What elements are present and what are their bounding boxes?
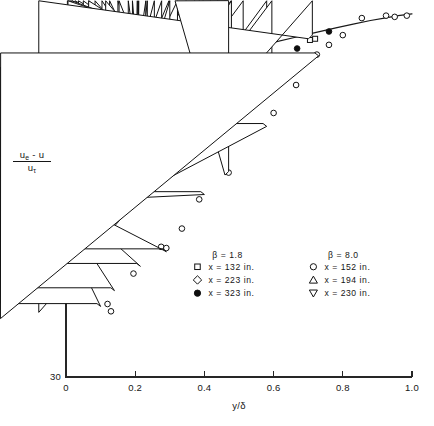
legend-label-2-2: x = 194 in. bbox=[324, 275, 370, 285]
data-point bbox=[108, 308, 114, 314]
data-point bbox=[404, 13, 410, 19]
x-tick-label-0.6: 0.6 bbox=[267, 382, 281, 393]
data-point bbox=[383, 13, 389, 19]
data-point bbox=[340, 32, 346, 38]
legend-marker-circle-filled bbox=[194, 290, 200, 296]
data-point bbox=[271, 110, 277, 116]
legend-header-2: β = 8.0 bbox=[328, 250, 359, 260]
y-axis-label-numerator: ue ‑ u bbox=[6, 150, 58, 160]
data-point bbox=[196, 197, 202, 203]
legend-label-2-1: x = 152 in. bbox=[324, 262, 370, 272]
y-axis-label-denominator: uτ bbox=[6, 163, 58, 173]
legend-marker-triangle-down-open bbox=[309, 290, 317, 297]
data-point bbox=[326, 42, 332, 48]
legend-label-2-3: x = 230 in. bbox=[324, 288, 370, 298]
legend-column-1: β = 1.8x = 132 in.x = 223 in.x = 323 in. bbox=[193, 250, 254, 298]
legend-label-1-3: x = 323 in. bbox=[208, 288, 254, 298]
legend-label-1-1: x = 132 in. bbox=[208, 262, 254, 272]
legend-column-2: β = 8.0x = 152 in.x = 194 in.x = 230 in. bbox=[309, 250, 370, 298]
data-point bbox=[313, 36, 318, 41]
data-point bbox=[326, 29, 332, 35]
data-point bbox=[0, 53, 318, 319]
data-point bbox=[293, 82, 299, 88]
legend-marker-circle-open bbox=[310, 264, 316, 270]
legend-marker-square-open bbox=[195, 264, 201, 270]
chart-figure: 010203000.20.40.60.81.0y/δβ = 1.8x = 132… bbox=[0, 0, 434, 426]
x-axis-label: y/δ bbox=[232, 400, 246, 411]
data-point bbox=[359, 15, 365, 21]
series-beta-8.0-x-230 bbox=[0, 53, 318, 319]
x-tick-label-0: 0 bbox=[63, 382, 68, 393]
x-tick-label-0.8: 0.8 bbox=[336, 382, 350, 393]
data-point bbox=[105, 301, 111, 307]
x-tick-label-0.4: 0.4 bbox=[197, 382, 211, 393]
x-tick-label-0.2: 0.2 bbox=[128, 382, 142, 393]
plot-canvas: 010203000.20.40.60.81.0y/δβ = 1.8x = 132… bbox=[0, 0, 434, 426]
legend-header-1: β = 1.8 bbox=[212, 250, 243, 260]
data-point bbox=[131, 271, 137, 277]
y-axis-label: ue ‑ u uτ bbox=[6, 150, 58, 173]
legend-label-1-2: x = 223 in. bbox=[208, 275, 254, 285]
data-point bbox=[392, 14, 398, 20]
legend-marker-triangle-up-open bbox=[309, 276, 317, 283]
data-point bbox=[294, 46, 300, 52]
x-tick-label-1.0: 1.0 bbox=[405, 382, 419, 393]
y-tick-label-30: 30 bbox=[50, 371, 61, 382]
legend-marker-diamond-open bbox=[193, 276, 201, 284]
data-point bbox=[179, 226, 185, 232]
